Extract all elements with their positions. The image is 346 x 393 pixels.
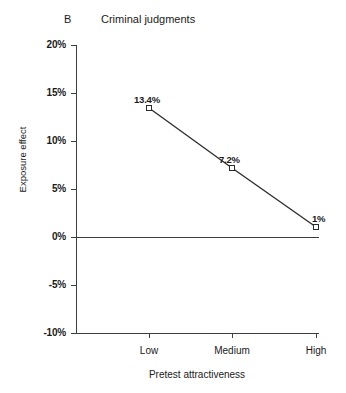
y-tick-label-20: 20% [47, 39, 66, 51]
x-axis-title: Pretest attractiveness [76, 369, 318, 381]
y-tick-label-minus10: -10% [43, 327, 66, 339]
y-axis-title: Exposure effect [17, 105, 28, 215]
x-tick-label-high: High [306, 345, 327, 357]
x-tick-label-medium: Medium [214, 345, 250, 357]
data-label-medium: 7.2% [219, 154, 240, 165]
data-marker-high [313, 224, 319, 230]
data-label-low: 13.4% [134, 94, 160, 105]
y-tick-label-minus5: -5% [49, 279, 66, 291]
chart-title: Criminal judgments [101, 13, 195, 26]
panel-label: B [64, 13, 72, 26]
data-marker-medium [229, 165, 235, 171]
y-tick-label-0: 0% [52, 231, 66, 243]
y-tick-label-10: 10% [47, 135, 66, 147]
plot-area: 20% 15% 10% 5% 0% -5% -10% Low Medium Hi… [76, 45, 318, 333]
y-tick-label-15: 15% [47, 87, 66, 99]
data-label-high: 1% [312, 213, 325, 224]
series-line [76, 45, 318, 334]
y-tick-label-5: 5% [52, 183, 66, 195]
data-marker-low [146, 105, 152, 111]
x-tick-label-low: Low [140, 345, 158, 357]
figure-panel-b: B Criminal judgments Exposure effect Pre… [0, 0, 346, 393]
